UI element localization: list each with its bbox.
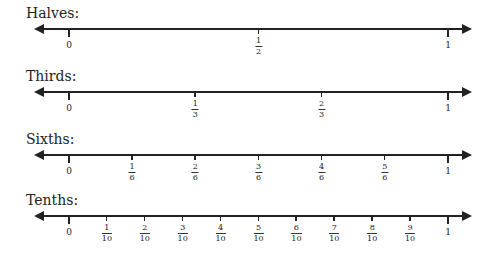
right-arrow-icon	[462, 150, 472, 160]
left-arrow-icon	[34, 24, 44, 34]
tick-mark	[131, 155, 133, 160]
fraction-label: 16	[129, 163, 136, 182]
numerator: 2	[141, 224, 148, 232]
tick-mark	[68, 155, 70, 163]
numerator: 3	[179, 224, 186, 232]
number-line-title: Thirds:	[26, 68, 76, 84]
tick-mark	[258, 216, 260, 221]
tick-mark	[194, 92, 196, 97]
denominator: 10	[178, 235, 188, 243]
denominator: 2	[256, 48, 261, 56]
numerator: 5	[381, 163, 388, 171]
right-arrow-icon	[462, 211, 472, 221]
tick-mark	[295, 216, 297, 221]
label-one: 1	[445, 104, 451, 113]
tick-mark	[447, 216, 449, 224]
tick-mark	[333, 216, 335, 221]
fraction-label: 610	[291, 224, 301, 243]
numerator: 1	[255, 37, 262, 45]
label-zero: 0	[66, 167, 72, 176]
fraction-label: 110	[102, 224, 112, 243]
left-arrow-icon	[34, 150, 44, 160]
number-line-title: Tenths:	[26, 192, 78, 208]
tick-mark	[321, 92, 323, 97]
tick-mark	[447, 29, 449, 37]
axis-line	[42, 28, 462, 30]
numerator: 2	[192, 163, 199, 171]
denominator: 10	[253, 235, 263, 243]
tick-mark	[258, 155, 260, 160]
tick-mark	[68, 216, 70, 224]
fraction-label: 710	[329, 224, 339, 243]
numerator: 6	[293, 224, 300, 232]
label-one: 1	[445, 167, 451, 176]
numerator: 1	[103, 224, 110, 232]
denominator: 6	[382, 174, 387, 182]
label-one: 1	[445, 228, 451, 237]
numerator: 4	[217, 224, 224, 232]
tick-mark	[371, 216, 373, 221]
numerator: 4	[318, 163, 325, 171]
denominator: 10	[140, 235, 150, 243]
tick-mark	[220, 216, 222, 221]
denominator: 6	[193, 174, 198, 182]
right-arrow-icon	[462, 87, 472, 97]
tick-mark	[409, 216, 411, 221]
fraction-label: 26	[192, 163, 199, 182]
tick-mark	[384, 155, 386, 160]
fraction-label: 310	[178, 224, 188, 243]
axis-line	[42, 154, 462, 156]
denominator: 10	[216, 235, 226, 243]
fraction-label: 12	[255, 37, 262, 56]
denominator: 10	[367, 235, 377, 243]
fraction-label: 410	[216, 224, 226, 243]
number-line-title: Halves:	[26, 5, 79, 21]
left-arrow-icon	[34, 87, 44, 97]
fraction-label: 210	[140, 224, 150, 243]
label-one: 1	[445, 41, 451, 50]
denominator: 6	[130, 174, 135, 182]
numerator: 1	[192, 100, 199, 108]
tick-mark	[144, 216, 146, 221]
numerator: 3	[255, 163, 262, 171]
denominator: 10	[291, 235, 301, 243]
numerator: 1	[129, 163, 136, 171]
denominator: 6	[256, 174, 261, 182]
fraction-label: 23	[318, 100, 325, 119]
fraction-label: 56	[381, 163, 388, 182]
numerator: 8	[369, 224, 376, 232]
fraction-label: 510	[253, 224, 263, 243]
left-arrow-icon	[34, 211, 44, 221]
numerator: 7	[331, 224, 338, 232]
axis-line	[42, 91, 462, 93]
tick-mark	[182, 216, 184, 221]
tick-mark	[258, 29, 260, 34]
fraction-label: 46	[318, 163, 325, 182]
denominator: 10	[102, 235, 112, 243]
right-arrow-icon	[462, 24, 472, 34]
denominator: 3	[319, 111, 324, 119]
denominator: 10	[405, 235, 415, 243]
number-line-title: Sixths:	[26, 131, 75, 147]
denominator: 10	[329, 235, 339, 243]
numerator: 5	[255, 224, 262, 232]
fraction-label: 910	[405, 224, 415, 243]
tick-mark	[447, 92, 449, 100]
label-zero: 0	[66, 41, 72, 50]
fraction-label: 36	[255, 163, 262, 182]
denominator: 3	[193, 111, 198, 119]
tick-mark	[321, 155, 323, 160]
numerator: 9	[407, 224, 414, 232]
denominator: 6	[319, 174, 324, 182]
fraction-label: 810	[367, 224, 377, 243]
tick-mark	[68, 29, 70, 37]
tick-mark	[447, 155, 449, 163]
label-zero: 0	[66, 228, 72, 237]
label-zero: 0	[66, 104, 72, 113]
numerator: 2	[318, 100, 325, 108]
tick-mark	[194, 155, 196, 160]
fraction-label: 13	[192, 100, 199, 119]
tick-mark	[68, 92, 70, 100]
tick-mark	[106, 216, 108, 221]
